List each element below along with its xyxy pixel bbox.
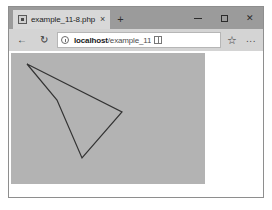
url-host: localhost: [74, 36, 108, 45]
polygon-shape: [27, 64, 122, 158]
navigation-toolbar: ← ↻ localhost/example_11 ☆ ∙∙∙: [9, 29, 263, 51]
url-path: /example_11: [108, 36, 152, 45]
favorites-star-icon[interactable]: ☆: [223, 30, 241, 50]
tab-strip: example_11-8.php × + ✕: [9, 7, 263, 29]
back-button[interactable]: ←: [11, 30, 33, 50]
generated-polygon-image: [11, 53, 205, 184]
minimize-button[interactable]: [185, 7, 211, 29]
page-favicon-icon: [18, 15, 27, 24]
browser-window: example_11-8.php × + ✕ ← ↻ localhost/exa…: [8, 6, 264, 198]
url-text: localhost/example_11: [72, 36, 151, 45]
polygon-svg: [11, 53, 205, 184]
reading-view-icon[interactable]: [151, 32, 164, 48]
maximize-button[interactable]: [211, 7, 237, 29]
close-tab-icon[interactable]: ×: [99, 15, 106, 24]
address-bar[interactable]: localhost/example_11: [57, 32, 221, 48]
page-content: [9, 51, 263, 197]
close-window-button[interactable]: ✕: [237, 7, 263, 29]
more-options-button[interactable]: ∙∙∙: [241, 30, 261, 50]
tab-example-11-8[interactable]: example_11-8.php ×: [13, 10, 110, 29]
new-tab-button[interactable]: +: [110, 10, 130, 29]
refresh-button[interactable]: ↻: [33, 30, 55, 50]
window-controls: ✕: [185, 7, 263, 29]
site-info-icon[interactable]: [58, 33, 72, 47]
tab-title: example_11-8.php: [31, 15, 95, 24]
